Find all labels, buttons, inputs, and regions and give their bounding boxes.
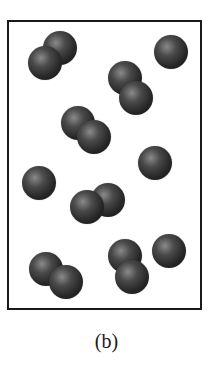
figure-label: (b) bbox=[0, 330, 213, 353]
atom-sphere bbox=[49, 265, 83, 299]
atom-sphere bbox=[119, 81, 153, 115]
atom-sphere bbox=[138, 146, 172, 180]
atom-sphere bbox=[154, 35, 188, 69]
atom-sphere bbox=[70, 190, 104, 224]
atom-sphere bbox=[22, 166, 56, 200]
atom-sphere bbox=[77, 120, 111, 154]
atom-sphere bbox=[115, 260, 149, 294]
atom-sphere bbox=[152, 234, 186, 268]
atom-sphere bbox=[28, 46, 62, 80]
